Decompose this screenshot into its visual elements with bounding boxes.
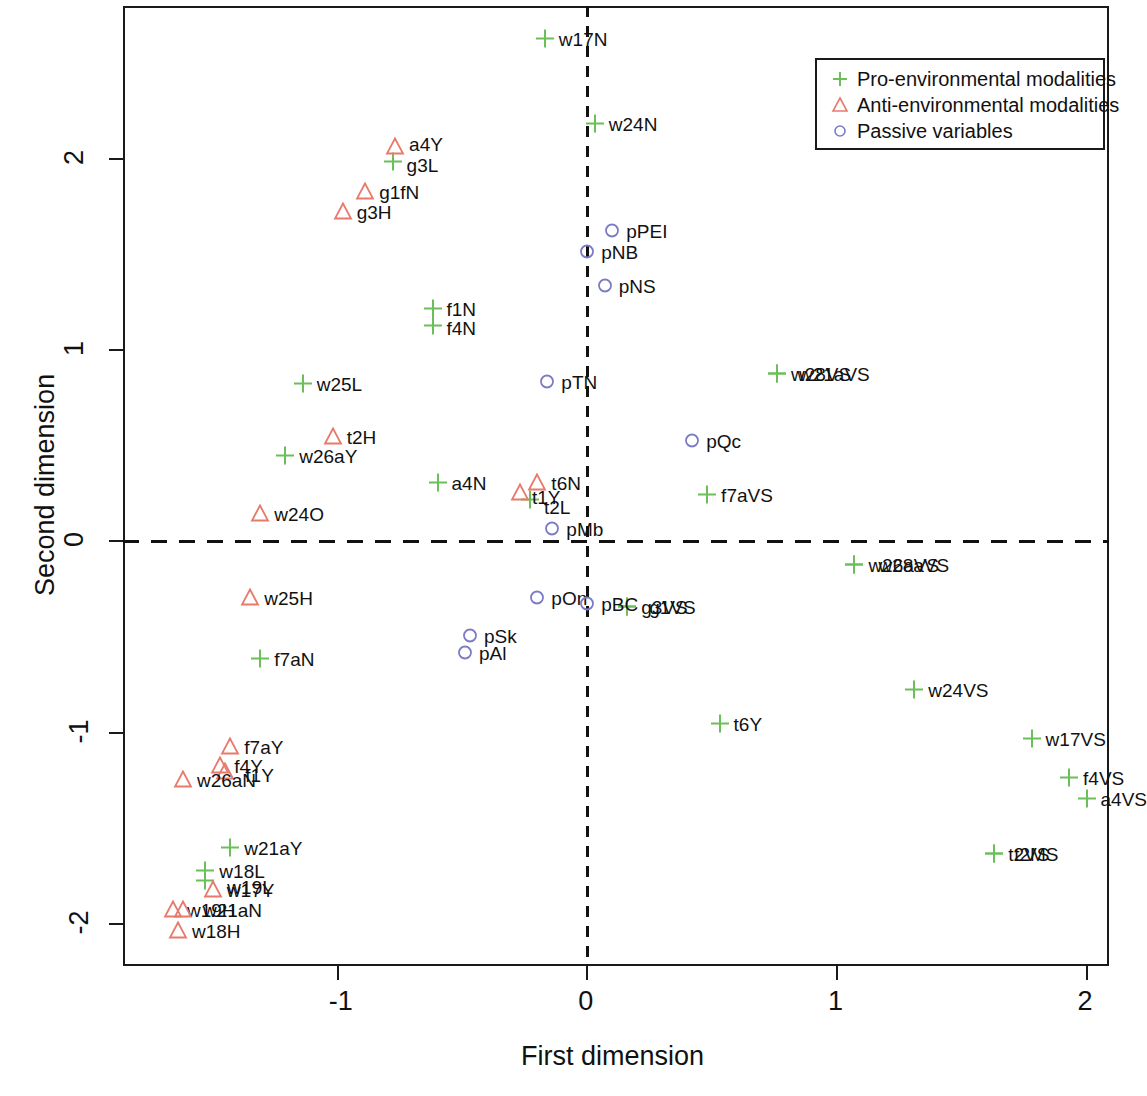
data-point-label: f7aN [274,649,314,671]
data-point-label: pNB [601,242,638,264]
reference-line-horizontal [123,540,1109,543]
data-point-marker [322,426,344,451]
y-axis-tick-label: 0 [59,532,90,547]
x-axis-tick-label: 2 [1078,986,1093,1017]
x-axis-tick-label: -1 [329,986,353,1017]
x-axis-tick-label: 1 [828,986,843,1017]
data-point-label: f4N [447,318,477,340]
data-point-label: t2MS [1014,844,1058,866]
data-point-label: pTN [561,372,597,394]
data-point-marker [1021,728,1043,753]
data-point-marker [172,768,194,793]
data-point-marker [576,240,598,265]
legend-entry-passive: Passive variables [827,118,1013,144]
data-point-label: pBC [601,594,638,616]
y-axis-tick-label: -2 [64,910,95,934]
data-point-label: pPEI [626,221,667,243]
data-point-marker [536,370,558,395]
data-point-marker [526,586,548,611]
x-axis-tick [1086,966,1088,980]
y-axis-tick [109,923,123,925]
data-point-marker [167,919,189,944]
circle-icon [827,120,853,142]
y-axis-tick-label: -1 [64,719,95,743]
data-point-label: w28aVS [878,555,949,577]
data-point-marker [1076,787,1098,812]
y-axis-tick-label: 1 [59,341,90,356]
data-point-marker [903,678,925,703]
data-point-label: w17VS [1046,729,1106,751]
x-axis-title: First dimension [521,1041,704,1072]
plot-area [123,6,1109,966]
reference-line-vertical [586,6,589,966]
legend-entry-pro: Pro-environmental modalities [827,66,1116,92]
data-point-marker [219,837,241,862]
data-point-marker [249,502,271,527]
data-point-label: w25L [317,374,362,396]
data-point-marker [681,430,703,455]
data-point-marker [427,472,449,497]
plus-icon [827,68,853,90]
data-point-label: t2H [347,427,377,449]
data-point-label: pMb [566,519,603,541]
data-point-marker [594,275,616,300]
data-point-marker [696,483,718,508]
data-point-label: t1Y [532,487,561,509]
data-point-marker [239,586,261,611]
data-point-marker [983,843,1005,868]
data-point-marker [509,481,531,506]
data-point-label: w25H [264,588,313,610]
data-point-label: w26aN [197,770,256,792]
data-point-label: a4VS [1101,789,1147,811]
data-point-marker [274,445,296,470]
triangle-icon [827,94,853,116]
x-axis-tick [337,966,339,980]
legend-label-pro: Pro-environmental modalities [857,68,1116,91]
data-point-label: g1VS [649,597,695,619]
data-point-label: a4Y [409,134,443,156]
x-axis-tick-label: 0 [578,986,593,1017]
data-point-label: pAl [479,643,506,665]
data-point-marker [422,315,444,340]
data-point-marker [584,112,606,137]
data-point-label: w21aY [244,838,302,860]
data-point-marker [384,135,406,160]
data-point-marker [843,554,865,579]
data-point-marker [454,642,476,667]
data-point-label: w21aVS [799,364,870,386]
y-axis-tick [109,349,123,351]
y-axis-title: Second dimension [30,374,61,596]
data-point-label: w17N [559,29,608,51]
data-point-label: w24N [609,114,658,136]
legend-entry-anti: Anti-environmental modalities [827,92,1119,118]
data-point-marker [541,517,563,542]
x-axis-tick [836,966,838,980]
data-point-label: pQc [706,431,741,453]
data-point-marker [332,200,354,225]
y-axis-tick [109,158,123,160]
data-point-marker [534,28,556,53]
data-point-label: w18H [192,921,241,943]
data-point-marker [249,648,271,673]
data-point-label: w24O [274,504,324,526]
data-point-label: w24VS [928,680,988,702]
data-point-label: g3H [357,202,392,224]
data-point-marker [576,592,598,617]
y-axis-tick-label: 2 [59,150,90,165]
data-point-marker [709,713,731,738]
data-point-marker [292,372,314,397]
data-point-label: t6Y [734,714,763,736]
chart-legend: Pro-environmental modalities Anti-enviro… [815,58,1105,150]
legend-label-anti: Anti-environmental modalities [857,94,1119,117]
y-axis-tick [109,540,123,542]
data-point-marker [766,363,788,388]
data-point-marker [601,219,623,244]
data-point-label: f7aVS [721,485,773,507]
data-point-label: g3L [407,155,439,177]
x-axis-tick [586,966,588,980]
legend-label-passive: Passive variables [857,120,1013,143]
data-point-label: a4N [452,473,487,495]
y-axis-tick [109,732,123,734]
data-point-label: pNS [619,276,656,298]
